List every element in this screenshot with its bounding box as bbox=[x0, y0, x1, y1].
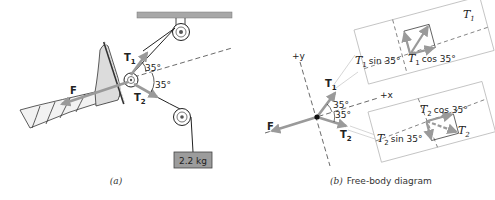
fbd-tension-T1-label: T1 bbox=[325, 78, 337, 92]
inset-T1-components bbox=[354, 0, 494, 84]
physics-figure: 2.2 kg F T1 T2 35° 35° bbox=[0, 0, 495, 200]
angle-lower-label: 35° bbox=[155, 80, 171, 90]
caption-b: (b)Free-body diagram bbox=[330, 176, 432, 186]
fbd-angle-upper-label: 35° bbox=[333, 100, 349, 110]
fbd-origin-point bbox=[314, 114, 319, 119]
fbd-angle-lower-label: 35° bbox=[335, 110, 351, 120]
fbd-angle-arc-upper bbox=[327, 104, 332, 112]
force-F-label: F bbox=[70, 85, 77, 96]
fbd-tension-T2-label: T2 bbox=[340, 129, 352, 143]
fbd-force-F-arrow bbox=[272, 117, 317, 131]
fbd-force-F-label: F bbox=[267, 121, 274, 132]
lower-pulley bbox=[174, 109, 191, 126]
figure-b: +y +x F T1 T2 35° 35° bbox=[265, 0, 495, 186]
tension-T2-label: T2 bbox=[134, 92, 146, 106]
ceiling-bar bbox=[137, 12, 232, 18]
tension-T1-label: T1 bbox=[124, 52, 136, 66]
axis-y-label: +y bbox=[292, 51, 306, 61]
axis-x-label: +x bbox=[380, 90, 394, 100]
figure-a: 2.2 kg F T1 T2 35° 35° bbox=[20, 12, 232, 186]
mass-label: 2.2 kg bbox=[179, 156, 207, 166]
angle-upper-label: 35° bbox=[145, 63, 161, 73]
angle-arc-lower bbox=[151, 73, 154, 92]
caption-a: (a) bbox=[110, 176, 123, 186]
upper-pulley bbox=[173, 18, 190, 41]
